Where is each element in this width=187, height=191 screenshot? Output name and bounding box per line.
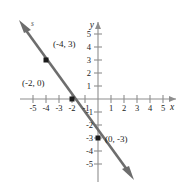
point-marker-0--3 (96, 136, 101, 141)
point-marker--4-3 (44, 58, 49, 63)
x-axis-label: x (169, 102, 175, 112)
y-axis (94, 22, 102, 182)
point-label-x-intercept: (-2, 0) (22, 78, 45, 88)
y-tick-label-1: 1 (87, 81, 91, 91)
y-tick-label-3: 3 (87, 55, 91, 65)
y-tick-label-5: 5 (87, 29, 91, 39)
x-tick-label--4: -4 (42, 103, 50, 113)
y-axis-label: y (89, 20, 95, 30)
line-s-label: s (31, 19, 34, 28)
line-s-arrowhead-lower (122, 166, 134, 180)
y-tick-label--2: -2 (86, 120, 93, 130)
point-label-upper: (-4, 3) (53, 39, 76, 49)
x-tick-label-2: 2 (122, 103, 126, 113)
x-tick-label--5: -5 (29, 103, 36, 113)
x-tick-label-5: 5 (161, 103, 165, 113)
y-tick-label--4: -4 (86, 146, 94, 156)
x-tick-label--2: -2 (68, 103, 75, 113)
coordinate-plane-figure: -5 -4 -3 -2 -1 1 2 3 4 5 5 4 3 2 1 -1 -2… (0, 0, 187, 191)
x-tick-label-4: 4 (148, 103, 153, 113)
x-tick-label--3: -3 (55, 103, 62, 113)
y-axis-arrowhead (95, 22, 101, 29)
y-tick-label--1: -1 (86, 107, 93, 117)
x-tick-label-3: 3 (135, 103, 139, 113)
y-tick-label--5: -5 (86, 159, 93, 169)
line-s (19, 20, 134, 180)
x-tick-label-1: 1 (109, 103, 113, 113)
y-tick-label--3: -3 (86, 133, 93, 143)
y-tick-label-2: 2 (87, 68, 91, 78)
y-tick-label-4: 4 (87, 42, 92, 52)
line-s-stroke (25, 29, 128, 171)
line-s-arrowhead-upper (19, 20, 31, 33)
point-label-y-intercept: (0, -3) (105, 134, 128, 144)
point-marker--2-0 (70, 97, 75, 102)
graph-svg: -5 -4 -3 -2 -1 1 2 3 4 5 5 4 3 2 1 -1 -2… (0, 0, 187, 191)
